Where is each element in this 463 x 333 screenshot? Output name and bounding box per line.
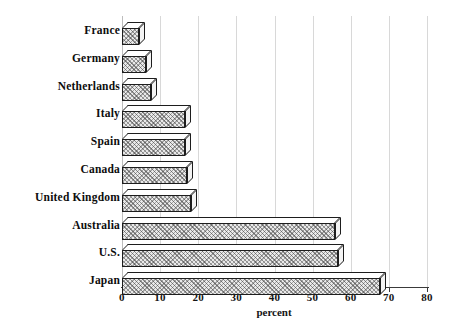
category-label: Italy	[2, 107, 120, 119]
bar-row	[122, 105, 193, 131]
bar-japan	[122, 278, 380, 295]
bar-australia	[122, 223, 335, 240]
category-label: Canada	[2, 163, 120, 175]
gridline-60	[351, 16, 352, 287]
gridline-80	[427, 16, 428, 287]
category-axis-labels: FranceGermanyNetherlandsItalySpainCanada…	[0, 0, 120, 333]
bar-row	[122, 133, 193, 159]
bar-spain	[122, 139, 185, 156]
bar-end-cap	[185, 105, 191, 128]
bar-row	[122, 22, 147, 48]
bar-end-cap	[191, 189, 197, 212]
plot-area	[122, 16, 427, 287]
bar-u-s	[122, 250, 338, 267]
category-label: France	[2, 24, 120, 36]
bar-row	[122, 217, 343, 243]
category-label: Spain	[2, 135, 120, 147]
bar-end-cap	[139, 22, 145, 45]
x-tick-label: 80	[407, 291, 447, 303]
bar-row	[122, 189, 199, 215]
gridline-70	[389, 16, 390, 287]
category-label: Netherlands	[2, 80, 120, 92]
bar-end-cap	[338, 244, 344, 267]
bar-row	[122, 272, 388, 298]
bar-row	[122, 161, 195, 187]
category-label: Germany	[2, 52, 120, 64]
bar-canada	[122, 167, 187, 184]
bar-germany	[122, 56, 146, 73]
category-label: Australia	[2, 219, 120, 231]
bar-italy	[122, 111, 185, 128]
bar-france	[122, 28, 139, 45]
bar-row	[122, 78, 159, 104]
bar-chart: FranceGermanyNetherlandsItalySpainCanada…	[0, 0, 463, 333]
bar-end-cap	[185, 133, 191, 156]
bar-end-cap	[187, 161, 193, 184]
bar-row	[122, 244, 346, 270]
category-label: Japan	[2, 274, 120, 286]
category-label: United Kingdom	[2, 191, 120, 203]
bar-netherlands	[122, 84, 151, 101]
category-label: U.S.	[2, 246, 120, 258]
bar-united-kingdom	[122, 195, 191, 212]
bar-row	[122, 50, 154, 76]
x-axis-title: percent	[256, 306, 291, 318]
